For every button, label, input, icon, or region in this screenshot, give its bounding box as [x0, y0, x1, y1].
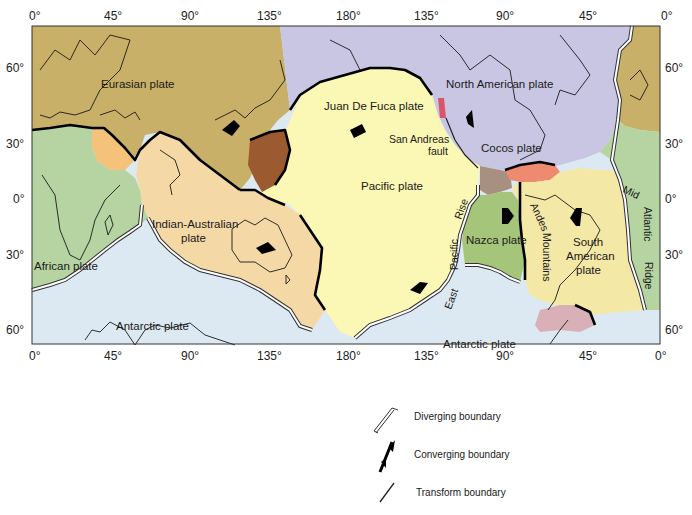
svg-text:60°: 60°	[665, 61, 683, 75]
left-axis: 60° 30° 0° 30° 60°	[6, 61, 25, 337]
svg-text:30°: 30°	[6, 248, 24, 262]
svg-text:60°: 60°	[6, 323, 24, 337]
svg-text:Diverging boundary: Diverging boundary	[414, 411, 501, 422]
right-axis: 60° 30° 0° 30° 60°	[665, 61, 683, 337]
svg-text:0°: 0°	[13, 192, 25, 206]
label-indian-australian-2: plate	[181, 232, 206, 244]
tectonic-plate-map: 0° 45° 90° 135° 180° 135° 90° 45° 0° 0° …	[0, 0, 692, 515]
bottom-axis: 0° 45° 90° 135° 180° 135° 90° 45° 0°	[29, 349, 667, 363]
label-antarctic-plate-east: Antarctic plate	[443, 338, 516, 350]
top-axis: 0° 45° 90° 135° 180° 135° 90° 45° 0°	[29, 9, 673, 23]
svg-text:135°: 135°	[414, 9, 439, 23]
svg-text:90°: 90°	[496, 349, 514, 363]
svg-text:135°: 135°	[257, 9, 282, 23]
legend-item-converging: Converging boundary	[380, 440, 510, 472]
label-nazca-plate: Nazca plate	[466, 234, 527, 246]
svg-text:60°: 60°	[665, 323, 683, 337]
svg-text:0°: 0°	[29, 9, 41, 23]
svg-text:135°: 135°	[414, 349, 439, 363]
svg-text:180°: 180°	[336, 349, 361, 363]
label-mid-atlantic-2: Atlantic	[642, 207, 654, 241]
label-eurasian-plate: Eurasian plate	[101, 78, 175, 90]
label-indian-australian-1: Indian-Australian	[152, 218, 238, 230]
legend: Diverging boundary Converging boundary T…	[374, 408, 510, 502]
svg-text:0°: 0°	[655, 349, 667, 363]
diverging-boundary-icon	[374, 408, 398, 433]
label-north-american-plate: North American plate	[446, 78, 553, 90]
label-south-american-3: plate	[576, 264, 601, 276]
label-andes-2: Mountains	[541, 233, 553, 281]
label-cocos-plate: Cocos plate	[481, 142, 542, 154]
label-south-american-2: American	[566, 250, 615, 262]
svg-text:Transform boundary: Transform boundary	[416, 487, 506, 498]
svg-text:90°: 90°	[181, 9, 199, 23]
legend-item-diverging: Diverging boundary	[374, 408, 501, 433]
svg-text:45°: 45°	[579, 9, 597, 23]
label-mid-atlantic-3: Ridge	[643, 262, 655, 290]
svg-text:180°: 180°	[336, 9, 361, 23]
svg-text:90°: 90°	[181, 349, 199, 363]
svg-text:0°: 0°	[29, 349, 41, 363]
svg-text:135°: 135°	[257, 349, 282, 363]
svg-text:45°: 45°	[104, 9, 122, 23]
svg-text:90°: 90°	[496, 9, 514, 23]
svg-text:0°: 0°	[665, 192, 677, 206]
label-antarctic-plate-west: Antarctic plate	[116, 320, 189, 332]
svg-text:0°: 0°	[661, 9, 673, 23]
svg-text:45°: 45°	[104, 349, 122, 363]
svg-text:30°: 30°	[665, 248, 683, 262]
svg-text:Converging boundary: Converging boundary	[414, 449, 510, 460]
legend-item-transform: Transform boundary	[380, 483, 506, 502]
label-east-pacific-rise-2: Pacific	[448, 239, 460, 270]
svg-text:45°: 45°	[579, 349, 597, 363]
label-juan-de-fuca-plate: Juan De Fuca plate	[324, 100, 424, 112]
svg-text:60°: 60°	[6, 61, 24, 75]
converging-boundary-icon	[380, 440, 395, 472]
label-african-plate: African plate	[34, 260, 98, 272]
label-san-andreas: San Andreas	[389, 133, 449, 145]
svg-text:30°: 30°	[665, 137, 683, 151]
transform-boundary-icon	[380, 483, 394, 502]
label-pacific-plate: Pacific plate	[361, 180, 423, 192]
label-san-andreas-fault: fault	[428, 145, 448, 157]
svg-text:30°: 30°	[6, 137, 24, 151]
label-south-american-1: South	[573, 236, 603, 248]
